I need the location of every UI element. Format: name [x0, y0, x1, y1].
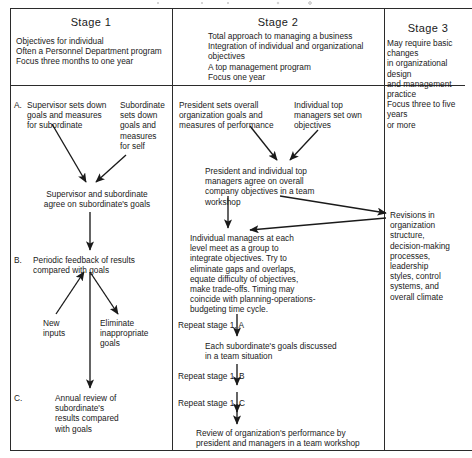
diagram-canvas: Stage 1 Stage 2 Stage 3 Objectives for i…: [0, 0, 472, 458]
stage1-node-supervisor-sets: Supervisor sets down goals and measures …: [27, 100, 125, 131]
stage1-node-periodic-feedback: Periodic feedback of results compared wi…: [33, 255, 168, 275]
stage-1-summary: Objectives for individual Often a Person…: [16, 36, 172, 67]
stage-2-header: Stage 2: [174, 16, 382, 28]
stage1-node-new-inputs: New inputs: [43, 318, 89, 338]
stage3-node-revisions: Revisions in organization structure, dec…: [390, 210, 472, 302]
stage2-node-integrate-objectives: Individual managers at each level meet a…: [190, 233, 370, 315]
stage2-node-review-performance: Review of organization's performance by …: [196, 428, 386, 448]
stage2-node-each-subordinate-goals: Each subordinate's goals discussed in a …: [205, 341, 380, 361]
stage2-node-repeat-stage-1-b: Repeat stage 1, B: [178, 371, 288, 381]
cutoff-title-ghost: [150, 0, 380, 6]
stage1-node-eliminate-goals: Eliminate inappropriate goals: [100, 318, 170, 349]
stage2-node-agree-team-workshop: President and individual top managers ag…: [205, 166, 365, 207]
stage1-marker-b: B.: [14, 255, 22, 265]
stage2-node-repeat-stage-1-a: Repeat stage 1, A: [178, 320, 288, 330]
stage1-marker-a: A.: [14, 100, 22, 110]
stage1-node-agree-goals: Supervisor and subordinate agree on subo…: [22, 189, 172, 209]
stage2-node-repeat-stage-1-c: Repeat stage 1, C: [178, 398, 288, 408]
stage-1-header: Stage 1: [12, 16, 170, 28]
column-divider-2: [384, 8, 385, 451]
column-divider-1: [172, 8, 173, 451]
stage1-marker-c: C.: [14, 393, 22, 403]
stage2-node-individual-top-managers: Individual top managers set own objectiv…: [294, 100, 384, 131]
stage1-node-annual-review: Annual review of subordinate's results c…: [55, 393, 150, 434]
stage-3-header: Stage 3: [386, 22, 470, 34]
stage1-node-subordinate-sets: Subordinate sets down goals and measures…: [120, 100, 175, 151]
stage2-node-president-sets: President sets overall organization goal…: [179, 100, 283, 131]
stage-2-summary: Total approach to managing a business In…: [208, 31, 384, 82]
stage-3-summary: May require basic changes in organizatio…: [387, 38, 472, 130]
